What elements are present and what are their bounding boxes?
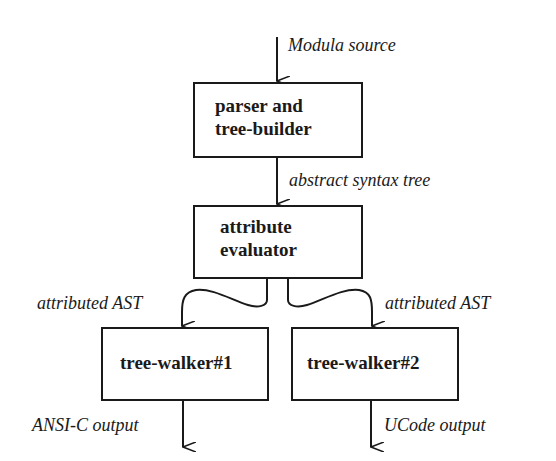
evaluator-box-line2: evaluator xyxy=(220,239,297,261)
tree-walker-2-box: tree-walker#2 xyxy=(291,327,459,401)
attributed-ast-right-label: attributed AST xyxy=(385,293,490,313)
compiler-pipeline-diagram: parser and tree-builder attribute evalua… xyxy=(0,0,556,461)
evaluator-box-line1: attribute xyxy=(220,216,292,238)
attribute-evaluator-box: attribute evaluator xyxy=(193,205,363,279)
ucode-output-label: UCode output xyxy=(384,415,486,435)
ansi-c-output-label: ANSI-C output xyxy=(32,415,139,435)
evaluator-to-walker1-arrow xyxy=(182,278,267,326)
tree-walker-2-label: tree-walker#2 xyxy=(307,352,420,374)
tree-walker-1-label: tree-walker#1 xyxy=(120,352,233,374)
tree-walker-1-box: tree-walker#1 xyxy=(101,327,269,401)
parser-tree-builder-box: parser and tree-builder xyxy=(193,82,363,158)
attributed-ast-left-label: attributed AST xyxy=(37,293,142,313)
parser-box-line1: parser and xyxy=(215,95,303,117)
abstract-syntax-tree-label: abstract syntax tree xyxy=(289,170,430,190)
parser-box-line2: tree-builder xyxy=(215,118,312,140)
evaluator-to-walker2-arrow xyxy=(288,278,372,326)
modula-source-label: Modula source xyxy=(288,35,396,55)
